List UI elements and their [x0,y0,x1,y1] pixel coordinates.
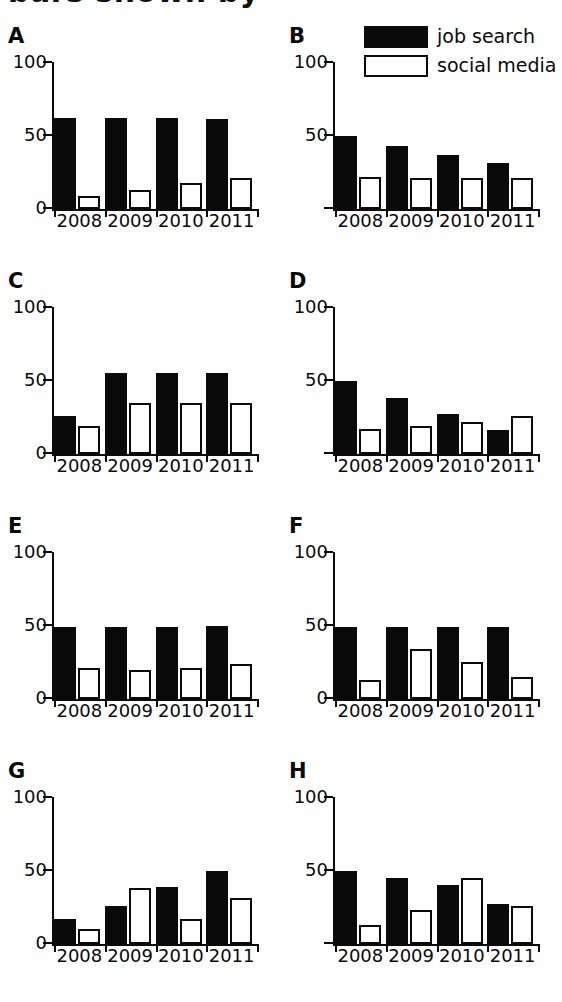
bar-series-container [335,307,538,454]
panel-letter-h: H [289,761,307,782]
y-axis-label-100: 100 [294,543,328,561]
x-axis-label-2008: 2008 [335,211,386,232]
chart-panel-b: B100502008200920102011 [281,22,562,267]
x-axis-label-2008: 2008 [54,211,105,232]
plot-area: 100502008200920102011 [333,307,538,454]
chart-panel-g: G1005002008200920102011 [0,757,281,1002]
chart-panel-d: D100502008200920102011 [281,267,562,512]
y-axis-label-50: 50 [305,371,328,389]
bar-group-2011 [487,552,538,699]
panel-row: A1005002008200920102011B1005020082009201… [0,22,562,267]
bar-job-search-2011 [206,119,228,209]
bar-group-2011 [206,797,257,944]
bar-group-2011 [487,62,538,209]
bar-group-2008 [54,552,105,699]
y-tick-0 [324,207,333,209]
bar-group-2008 [54,307,105,454]
x-axis-label-2011: 2011 [487,211,538,232]
bar-social-media-2010 [461,878,483,944]
x-axis-labels: 2008200920102011 [335,701,538,722]
y-axis-label-100: 100 [13,53,47,71]
y-axis-label-0: 0 [36,689,47,707]
y-tick-0 [324,942,333,944]
bar-group-2009 [386,307,437,454]
bar-social-media-2008 [78,668,100,699]
y-axis-label-50: 50 [24,861,47,879]
panel-row: C1005002008200920102011D1005020082009201… [0,267,562,512]
x-axis-label-2009: 2009 [386,456,437,477]
bar-job-search-2009 [105,373,127,454]
x-axis-label-2010: 2010 [437,456,488,477]
panel-letter-d: D [289,271,306,292]
chart-panel-e: E1005002008200920102011 [0,512,281,757]
bar-group-2009 [105,552,156,699]
x-axis-label-2011: 2011 [206,211,257,232]
y-axis-label-50: 50 [305,616,328,634]
bar-social-media-2009 [410,178,432,209]
bar-job-search-2011 [206,626,228,700]
x-axis-label-2009: 2009 [105,211,156,232]
chart-panel-f: F1005002008200920102011 [281,512,562,757]
x-axis-label-2011: 2011 [206,456,257,477]
bar-social-media-2008 [359,429,381,454]
bar-group-2009 [105,307,156,454]
x-tick-mark [538,699,540,707]
bar-job-search-2011 [487,163,509,209]
panel-letter-c: C [8,271,23,292]
x-axis-labels: 2008200920102011 [335,946,538,967]
bar-social-media-2011 [511,416,533,454]
chart-panel-a: A1005002008200920102011 [0,22,281,267]
bar-series-container [335,62,538,209]
bar-social-media-2010 [180,183,202,209]
bar-group-2008 [335,797,386,944]
panel-letter-b: B [289,26,305,47]
x-axis-label-2011: 2011 [487,456,538,477]
bar-social-media-2010 [461,662,483,699]
bar-group-2011 [206,552,257,699]
x-axis-label-2009: 2009 [105,946,156,967]
bar-job-search-2008 [54,416,76,454]
bar-social-media-2011 [511,677,533,699]
cropped-title-fragment: bars shown by [0,0,562,12]
bar-group-2011 [206,307,257,454]
y-axis-label-50: 50 [305,126,328,144]
x-axis-label-2010: 2010 [437,701,488,722]
bar-social-media-2011 [511,906,533,944]
bar-social-media-2009 [129,670,151,699]
x-axis-label-2011: 2011 [487,946,538,967]
x-axis-label-2011: 2011 [206,701,257,722]
y-axis-label-100: 100 [294,53,328,71]
panel-letter-e: E [8,516,22,537]
bar-group-2010 [437,307,488,454]
bar-social-media-2009 [129,190,151,209]
bar-job-search-2010 [437,414,459,454]
bar-group-2011 [487,797,538,944]
bar-social-media-2008 [78,196,100,209]
bar-social-media-2011 [230,178,252,209]
bar-social-media-2008 [78,426,100,454]
bar-job-search-2011 [487,430,509,454]
y-axis-label-100: 100 [13,298,47,316]
bar-social-media-2010 [461,178,483,209]
bar-group-2011 [487,307,538,454]
cropped-title-text: bars shown by [8,0,260,9]
x-axis-label-2008: 2008 [54,456,105,477]
bar-job-search-2008 [54,627,76,699]
bar-group-2010 [156,797,207,944]
y-axis-label-100: 100 [294,298,328,316]
bar-group-2009 [386,62,437,209]
bar-social-media-2011 [230,898,252,944]
x-axis-labels: 2008200920102011 [54,946,257,967]
x-axis-label-2008: 2008 [54,701,105,722]
y-axis-label-50: 50 [24,126,47,144]
bar-job-search-2009 [105,627,127,699]
bar-social-media-2011 [511,178,533,209]
x-axis-labels: 2008200920102011 [54,211,257,232]
bar-job-search-2009 [386,627,408,699]
y-axis-label-100: 100 [13,788,47,806]
y-axis-label-100: 100 [294,788,328,806]
x-tick-mark [538,944,540,952]
bar-group-2008 [54,797,105,944]
bar-social-media-2009 [410,910,432,944]
x-tick-mark [538,454,540,462]
